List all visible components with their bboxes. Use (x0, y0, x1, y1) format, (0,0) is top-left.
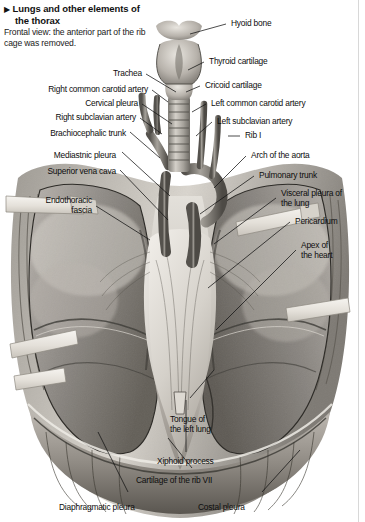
figure-caption-block: ▶ Lungs and other elements of the thorax… (4, 3, 154, 48)
figure-caption-text: Frontal view: the anterior part of the r… (4, 27, 154, 48)
label-xiphoid-process: Xiphoid process (157, 457, 214, 467)
label-brachiocephalic-trunk: Brachiocephalic trunk (22, 129, 126, 139)
label-apex-of-the-heart: Apex of the heart (301, 241, 332, 260)
label-costal-pleura: Costal pleura (198, 503, 245, 513)
figure-title-text: Lungs and other elements of the thorax (13, 3, 140, 26)
label-pulmonary-trunk: Pulmonary trunk (259, 171, 317, 181)
label-endothoracic-fascia: Endothoracic fascia (12, 196, 92, 215)
label-hyoid-bone: Hyoid bone (231, 19, 271, 29)
label-left-subclavian-artery: Left subclavian artery (217, 117, 292, 127)
label-cartilage-of-the-rib-vii: Cartilage of the rib VII (136, 476, 212, 486)
thorax-illustration (0, 0, 359, 522)
page-border (358, 0, 359, 522)
label-mediastnic-pleura: Mediastnic pleura (32, 151, 116, 161)
label-thyroid-cartilage: Thyroid cartilage (209, 57, 268, 67)
figure-page: ▶ Lungs and other elements of the thorax… (0, 0, 365, 522)
label-tongue-of-the-left-lung: Tongue of the left lung (170, 415, 211, 434)
label-arch-of-the-aorta: Arch of the aorta (251, 151, 310, 161)
figure-title: ▶ Lungs and other elements of the thorax (4, 3, 154, 26)
label-superior-vena-cava: Superior vena cava (14, 167, 116, 177)
label-cervical-pleura: Cervical pleura (48, 99, 138, 109)
label-right-common-carotid-artery: Right common carotid artery (23, 85, 148, 95)
bullet-triangle-icon: ▶ (4, 5, 10, 14)
label-cricoid-cartilage: Cricoid cartilage (205, 81, 262, 91)
label-visceral-pleura-of-the-lung: Visceral pleura of the lung (281, 189, 342, 208)
label-trachea: Trachea (70, 69, 142, 79)
label-left-common-carotid-artery: Left common carotid artery (211, 99, 305, 109)
label-pericardium: Pericardium (295, 217, 337, 227)
label-diaphragmatic-pleura: Diaphragmatic pleura (59, 503, 135, 513)
label-right-subclavian-artery: Right subclavian artery (28, 113, 136, 123)
label-rib-i: Rib I (245, 131, 261, 141)
